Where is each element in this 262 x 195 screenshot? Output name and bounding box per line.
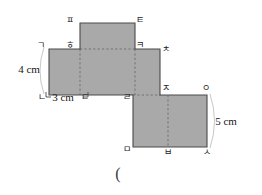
vertex-label-t: ㅌ (136, 16, 144, 25)
vertex-label-o: ㅇ (202, 84, 210, 93)
face-top (80, 23, 135, 49)
dimension-label-height-right: 5 cm (215, 116, 237, 127)
brace-height-right (210, 94, 215, 148)
dimension-label-height-left: 4 cm (18, 64, 40, 75)
vertex-label-r: ㄹ (123, 93, 131, 102)
vertex-label-h: ㅎ (66, 41, 74, 50)
geometry-figure: ㅍ ㅌ ㅎ ㅋ ㄱ ㅊ ㄴ ㄷ ㄹ ㅈ ㅇ ㅁ ㅂ ㅅ 4 cm 3 cm 5 … (0, 0, 262, 195)
vertex-label-j: ㅈ (162, 84, 170, 93)
vertex-label-n: ㄴ (38, 93, 46, 102)
face-bottom-right (133, 95, 207, 147)
dimension-label-width-bottom: 3 cm (52, 92, 74, 103)
answer-parenthesis: ( (115, 166, 120, 182)
vertex-label-ch: ㅊ (162, 45, 170, 54)
vertex-label-g: ㄱ (37, 41, 45, 50)
vertex-label-b: ㅂ (164, 148, 172, 157)
face-middle-band (49, 49, 160, 95)
vertex-label-m: ㅁ (123, 145, 131, 154)
vertex-label-k: ㅋ (136, 41, 144, 50)
vertex-label-s: ㅅ (203, 148, 211, 157)
vertex-label-p: ㅍ (66, 16, 74, 25)
brace-height-left (40, 47, 44, 94)
vertex-label-d: ㄷ (81, 93, 89, 102)
